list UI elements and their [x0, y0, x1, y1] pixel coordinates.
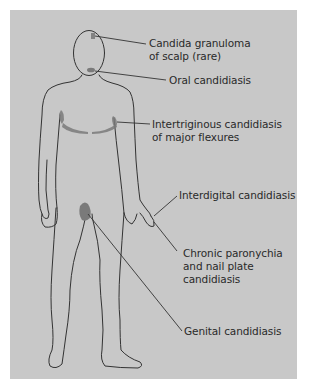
right-leg-outer — [92, 213, 142, 368]
label-scalp: Candida granuloma of scalp (rare) — [149, 37, 250, 63]
inframammary-lesion-left — [62, 123, 88, 134]
label-paronychia: Chronic paronychia and nail plate candid… — [183, 247, 283, 286]
leader-oral — [95, 71, 166, 80]
genital-lesion — [79, 202, 90, 220]
leader-intertriginous — [117, 122, 150, 124]
inframammary-lesion-right — [92, 124, 117, 134]
label-genital: Genital candidiasis — [184, 325, 281, 338]
label-interdigital: Interdigital candidiasis — [179, 189, 295, 202]
leader-interdigital — [154, 196, 177, 216]
right-hand — [124, 213, 154, 227]
torso-outline — [39, 75, 152, 219]
label-oral: Oral candidiasis — [169, 74, 251, 87]
left-leg-outer — [49, 208, 86, 368]
right-inner-arm — [114, 118, 124, 213]
label-intertriginous: Intertriginous candidiasis of major flex… — [152, 118, 282, 144]
scalp-lesion — [91, 33, 95, 39]
oral-lesion — [87, 68, 95, 73]
lesions — [59, 33, 117, 221]
leader-paronychia — [154, 222, 177, 251]
left-inner-arm — [56, 115, 60, 208]
